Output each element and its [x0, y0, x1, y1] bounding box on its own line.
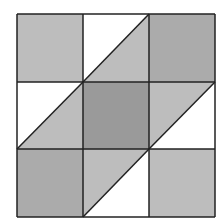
- shaded-square: [17, 149, 83, 217]
- quilt-grid-diagram: [0, 0, 220, 223]
- shaded-square: [83, 82, 149, 149]
- shaded-square: [17, 14, 83, 82]
- shaded-square: [149, 149, 215, 217]
- shaded-square: [149, 14, 215, 82]
